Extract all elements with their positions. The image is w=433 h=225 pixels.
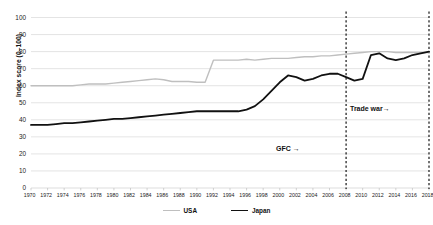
chart-legend: USA Japan [0, 207, 433, 214]
x-axis-tick-1996: 1996 [239, 192, 251, 198]
y-axis-tick-0: 0 [4, 184, 26, 191]
x-axis-tick-2006: 2006 [322, 192, 334, 198]
x-axis-tick-1972: 1972 [40, 192, 52, 198]
gridlines [31, 18, 429, 189]
y-axis-tick-50: 50 [4, 99, 26, 106]
x-axis-tick-2014: 2014 [389, 192, 401, 198]
legend-item-usa: USA [163, 207, 198, 214]
x-axis-tick-2002: 2002 [289, 192, 301, 198]
x-axis-tick-1976: 1976 [73, 192, 85, 198]
legend-item-japan: Japan [231, 207, 270, 214]
y-axis-tick-90: 90 [4, 31, 26, 38]
legend-label-japan: Japan [252, 207, 270, 214]
x-axis-tick-2018: 2018 [422, 192, 433, 198]
x-axis-tick-1970: 1970 [24, 192, 36, 198]
x-axis-tick-1974: 1974 [57, 192, 69, 198]
x-axis-tick-1998: 1998 [256, 192, 268, 198]
series-line-japan [31, 52, 429, 125]
x-axis-tick-2004: 2004 [306, 192, 318, 198]
y-axis-tick-80: 80 [4, 48, 26, 55]
y-axis-tick-20: 20 [4, 150, 26, 157]
annotation-trade-war: Trade war→ [350, 105, 390, 112]
annotation-gfc: GFC → [276, 145, 300, 152]
chart-container: Index score (0–100) 01020304050607080901… [0, 0, 433, 225]
x-axis-tick-1992: 1992 [206, 192, 218, 198]
x-axis-tick-1994: 1994 [223, 192, 235, 198]
x-axis-tick-2012: 2012 [372, 192, 384, 198]
y-axis-tick-100: 100 [4, 14, 26, 21]
x-axis-tick-1982: 1982 [123, 192, 135, 198]
x-axis-tick-1980: 1980 [107, 192, 119, 198]
legend-swatch-usa-icon [163, 210, 180, 211]
legend-swatch-japan-icon [231, 210, 248, 211]
x-axis-tick-1988: 1988 [173, 192, 185, 198]
legend-label-usa: USA [184, 207, 198, 214]
x-axis-tick-2008: 2008 [339, 192, 351, 198]
x-axis-tick-1986: 1986 [156, 192, 168, 198]
x-axis-tick-2016: 2016 [405, 192, 417, 198]
y-axis-tick-60: 60 [4, 82, 26, 89]
x-axis-tick-1984: 1984 [140, 192, 152, 198]
y-axis-tick-30: 30 [4, 133, 26, 140]
x-axis-tick-1990: 1990 [190, 192, 202, 198]
y-axis-tick-10: 10 [4, 167, 26, 174]
x-axis-tick-2000: 2000 [272, 192, 284, 198]
x-axis-tick-2010: 2010 [355, 192, 367, 198]
x-axis-tick-1978: 1978 [90, 192, 102, 198]
event-marker-lines [346, 12, 429, 190]
y-axis-tick-40: 40 [4, 116, 26, 123]
y-axis-tick-70: 70 [4, 65, 26, 72]
